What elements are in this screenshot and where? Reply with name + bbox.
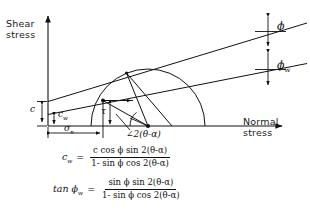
equals-sign: = — [86, 184, 99, 195]
phi-w-subscript: w — [285, 66, 291, 74]
numerator: sin ϕ sin 2(θ-α) — [105, 178, 176, 190]
wall-friction-angle-label: ϕw — [277, 59, 290, 74]
wall-cohesion-subscript: w — [63, 115, 68, 121]
mohr-circle-figure: Shear stress Normal stress c cw σn τ ∠2(… — [0, 0, 310, 218]
tangent-point-marker — [125, 71, 128, 74]
equation-lhs-subscript: w — [67, 158, 72, 164]
wall-cohesion-label: cw — [58, 109, 68, 121]
cohesion-label: c — [30, 104, 35, 114]
fraction: c cos ϕ sin 2(θ-α) 1- sin ϕ cos 2(θ-α) — [88, 146, 171, 169]
equals-sign: = — [75, 152, 88, 163]
angle-expression: 2(θ-α) — [134, 129, 161, 139]
denominator: 1- sin ϕ cos 2(θ-α) — [88, 158, 171, 169]
equation-lhs: cw — [62, 151, 75, 164]
angle-marker-icon: ∠ — [126, 129, 134, 139]
fraction: sin ϕ sin 2(θ-α) 1- sin ϕ cos 2(θ-α) — [99, 178, 182, 201]
wall-friction-equation: tan ϕw = sin ϕ sin 2(θ-α) 1- sin ϕ cos 2… — [53, 178, 183, 201]
radius-to-tangent-point — [127, 73, 149, 126]
equation-lhs-subscript: w — [78, 190, 83, 196]
shear-stress-label-symbol: τ — [101, 106, 106, 116]
normal-stress-axis-label: Normal stress — [243, 116, 279, 138]
numerator: c cos ϕ sin 2(θ-α) — [90, 146, 170, 158]
angle-annotation-label: ∠2(θ-α) — [126, 129, 161, 139]
sigma-subscript: n — [70, 129, 74, 135]
angle-leader-line — [116, 114, 130, 130]
phi-w-symbol: ϕ — [277, 59, 285, 72]
friction-angle-label: ϕ — [277, 20, 285, 33]
denominator: 1- sin ϕ cos 2(θ-α) — [99, 190, 182, 201]
normal-stress-label-symbol: σn — [64, 123, 74, 135]
equation-lhs-symbol: tan ϕ — [53, 183, 78, 194]
equation-lhs: tan ϕw — [53, 183, 86, 196]
shear-stress-axis-label: Shear stress — [6, 18, 35, 40]
wall-cohesion-equation: cw = c cos ϕ sin 2(θ-α) 1- sin ϕ cos 2(θ… — [62, 146, 172, 169]
